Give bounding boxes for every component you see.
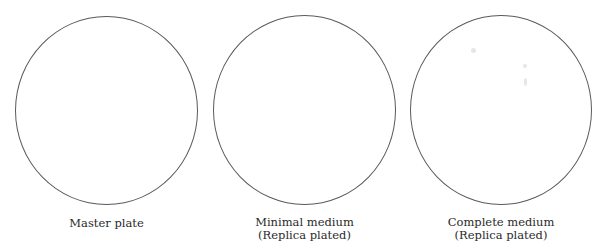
minimal-medium-plate [213,15,396,205]
complete-medium-plate [410,15,592,205]
colony-speck [523,64,527,68]
colony-speck [524,78,527,86]
master-plate [15,16,198,205]
minimal-medium-plate-label: Minimal medium (Replica plated) [213,216,396,242]
complete-medium-plate-label: Complete medium (Replica plated) [410,216,592,242]
master-plate-label: Master plate [15,217,198,230]
colony-speck [471,48,476,53]
complete-medium-label-line2: (Replica plated) [410,229,592,242]
master-plate-label-line1: Master plate [15,217,198,230]
minimal-medium-label-line2: (Replica plated) [213,229,396,242]
